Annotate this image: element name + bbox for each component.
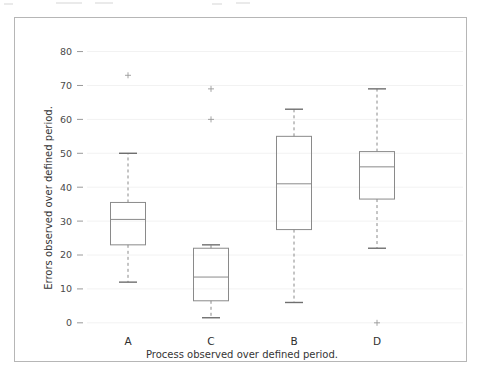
y-tick-label: 40 — [60, 182, 72, 193]
box-series — [111, 72, 395, 326]
box-plot-svg: 01020304050607080 ACBD Process observed … — [15, 18, 468, 363]
box-iqr — [277, 136, 312, 229]
y-tick-label: 60 — [60, 114, 72, 125]
y-tick-label: 20 — [60, 249, 72, 260]
x-category-label: D — [373, 335, 381, 347]
y-tick-label: 30 — [60, 216, 72, 227]
y-tick-label: 10 — [60, 283, 72, 294]
y-axis-ticks: 01020304050607080 — [60, 46, 83, 328]
x-category-label: C — [207, 335, 214, 347]
y-tick-label: 0 — [66, 317, 72, 328]
chart-figure-frame: 01020304050607080 ACBD Process observed … — [14, 17, 467, 362]
y-tick-label: 80 — [60, 46, 72, 57]
x-category-label: B — [290, 335, 297, 347]
box-plot: 01020304050607080 ACBD Process observed … — [15, 18, 468, 363]
y-tick-label: 70 — [60, 80, 72, 91]
x-axis-category-labels: ACBD — [124, 335, 381, 347]
box-iqr — [194, 248, 229, 301]
y-axis-title: Errors observed over defined period. — [43, 106, 54, 290]
x-axis-title: Process observed over defined period. — [146, 349, 338, 360]
box-iqr — [360, 152, 395, 199]
gridlines — [87, 52, 463, 323]
scan-artifact-strip — [0, 0, 481, 14]
y-tick-label: 50 — [60, 148, 72, 159]
box-iqr — [111, 202, 146, 244]
x-category-label: A — [124, 335, 132, 347]
